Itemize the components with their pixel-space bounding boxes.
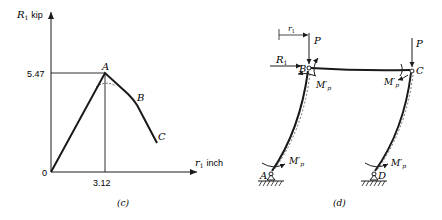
joint-label-d: D (377, 170, 386, 181)
moment-label-c: M′p (383, 77, 399, 89)
panel-d-caption: (d) (333, 198, 346, 208)
joint-label-c: C (416, 65, 424, 76)
point-label-b: B (136, 92, 144, 103)
point-label-c: C (158, 131, 166, 142)
displacement-r1-label: r1 (288, 24, 295, 34)
moment-label-b: M′p (315, 80, 331, 92)
reaction-r1-label: R1 (275, 54, 287, 66)
figure: R1kip r1inch 0 5.47 3.12 A B C (c) (0, 0, 442, 220)
beam-bc (311, 68, 410, 70)
moment-arrow-d (365, 163, 388, 167)
moment-arrow-c-column (398, 75, 408, 80)
panel-c-caption: (c) (117, 198, 130, 208)
panel-d-frame-diagram: r1 P P R1 B C A D M′p M′p M′p (258, 24, 424, 208)
panel-c-chart: R1kip r1inch 0 5.47 3.12 A B C (c) (16, 9, 223, 208)
hinge-c (410, 69, 414, 73)
moment-label-a: M′p (288, 156, 304, 168)
moment-label-d: M′p (390, 158, 406, 170)
x-axis-label: r1inch (195, 157, 223, 169)
column-cd (375, 73, 411, 171)
load-displacement-curve (51, 73, 157, 172)
joint-label-b: B (298, 63, 306, 74)
y-axis-label: R1kip (16, 9, 43, 21)
load-label-b: P (313, 35, 321, 46)
origin-label: 0 (42, 168, 47, 178)
moment-arrow-a (262, 163, 285, 167)
x-tick-label: 3.12 (93, 178, 111, 188)
moment-arrow-b-beam (314, 58, 318, 76)
load-label-c: P (415, 38, 423, 49)
point-label-a: A (101, 61, 109, 72)
joint-label-a: A (259, 170, 267, 181)
hinge-b (307, 66, 311, 70)
y-tick-label: 5.47 (27, 69, 45, 79)
